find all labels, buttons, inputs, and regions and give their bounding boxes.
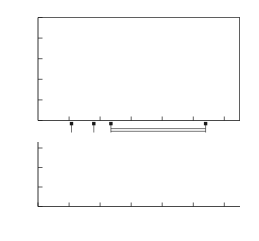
event-marker-band [70,122,208,133]
event-marker-group-4 [204,122,207,133]
bottom-panel-y-ticks [38,148,43,207]
chart-svg [0,0,259,241]
reaction-bracket [111,129,206,132]
event-marker-group-3 [109,122,112,133]
event-marker-group-2 [92,122,95,133]
figure-root [0,0,259,241]
bottom-panel [38,142,240,207]
top-panel-x-ticks [69,117,224,121]
bottom-panel-x-ticks [38,203,224,207]
event-marker-group-1 [70,122,73,133]
top-panel-y-ticks [38,18,43,121]
top-panel [14,18,240,121]
